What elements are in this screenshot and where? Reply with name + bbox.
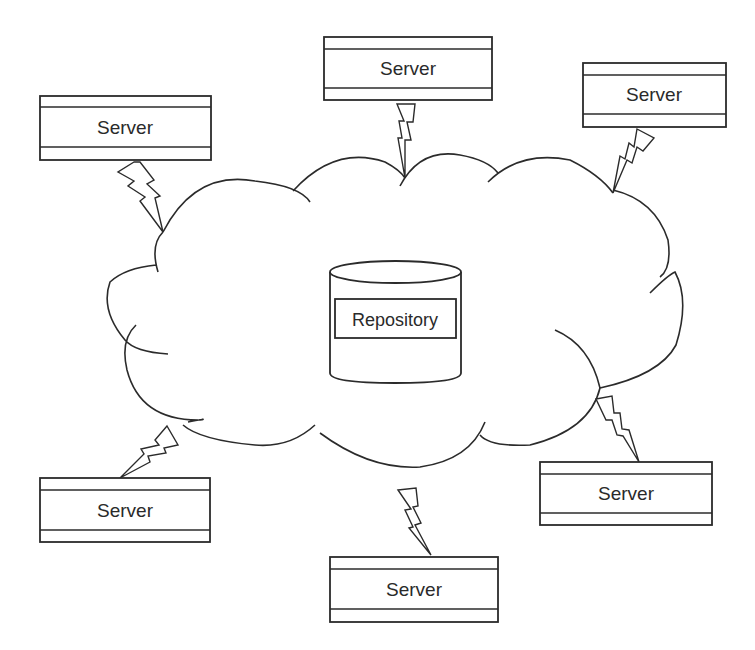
server-label: Server [598, 483, 655, 504]
server-top-center[interactable]: Server [324, 37, 492, 100]
lightning-bolt-icon [398, 488, 431, 555]
lightning-bolt-icon [120, 426, 178, 478]
server-bottom-center[interactable]: Server [330, 557, 498, 622]
repository-label: Repository [352, 310, 438, 330]
lightning-bolt-icon [118, 162, 163, 232]
server-top-right[interactable]: Server [583, 63, 726, 127]
server-label: Server [380, 58, 437, 79]
server-label: Server [97, 500, 154, 521]
lightning-bolt-icon [397, 104, 415, 178]
lightning-bolt-icon [613, 129, 654, 193]
lightning-bolt-icon [596, 396, 639, 462]
server-bottom-left[interactable]: Server [40, 478, 210, 542]
server-top-left[interactable]: Server [40, 96, 211, 160]
server-label: Server [97, 117, 154, 138]
network-diagram: Repository Server Server Server [0, 0, 755, 650]
server-label: Server [626, 84, 683, 105]
server-label: Server [386, 579, 443, 600]
server-bottom-right[interactable]: Server [540, 462, 712, 525]
repository[interactable]: Repository [330, 261, 461, 383]
